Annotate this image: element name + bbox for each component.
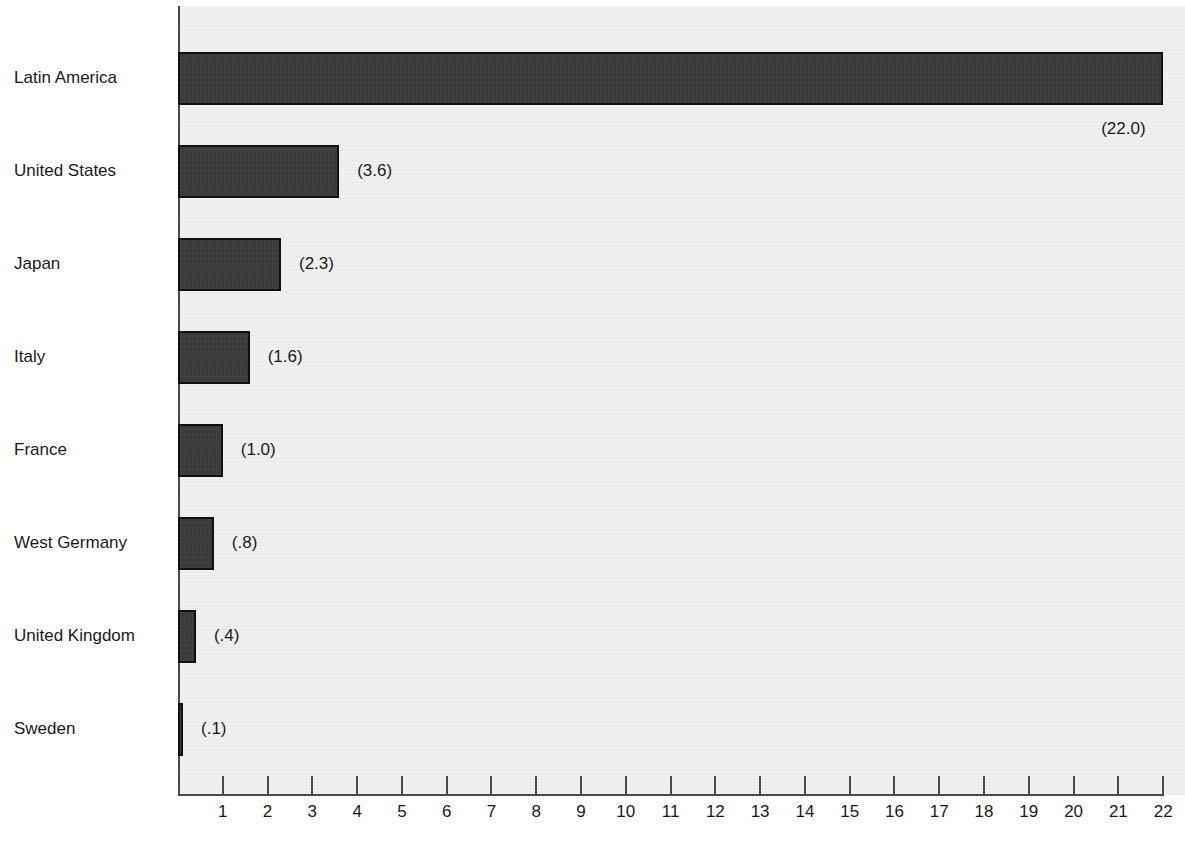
x-tick-label: 4 bbox=[352, 802, 361, 822]
x-tick-label: 22 bbox=[1154, 802, 1173, 822]
bar-texture bbox=[180, 519, 212, 568]
x-tick-label: 1 bbox=[218, 802, 227, 822]
x-tick-mark bbox=[490, 776, 492, 795]
bar bbox=[178, 331, 250, 384]
category-label: France bbox=[14, 440, 166, 460]
value-label: (.1) bbox=[201, 719, 227, 739]
y-axis-line bbox=[178, 6, 180, 796]
bar bbox=[178, 703, 183, 756]
x-tick-mark bbox=[804, 776, 806, 795]
bar-chart: Latin AmericaUnited StatesJapanItalyFran… bbox=[0, 0, 1185, 846]
x-tick-mark bbox=[535, 776, 537, 795]
x-tick-mark bbox=[401, 776, 403, 795]
x-tick-label: 7 bbox=[487, 802, 496, 822]
x-tick-mark bbox=[625, 776, 627, 795]
x-tick-mark bbox=[222, 776, 224, 795]
value-label: (1.0) bbox=[241, 440, 276, 460]
x-tick-label: 3 bbox=[308, 802, 317, 822]
x-tick-label: 14 bbox=[795, 802, 814, 822]
bar bbox=[178, 238, 281, 291]
bar-texture bbox=[180, 426, 221, 475]
x-tick-mark bbox=[580, 776, 582, 795]
x-tick-label: 19 bbox=[1019, 802, 1038, 822]
x-tick-mark bbox=[446, 776, 448, 795]
x-tick-mark bbox=[267, 776, 269, 795]
x-tick-mark bbox=[759, 776, 761, 795]
bar bbox=[178, 517, 214, 570]
x-tick-mark bbox=[670, 776, 672, 795]
plot-background-texture bbox=[178, 6, 1185, 795]
category-label: Latin America bbox=[14, 68, 166, 88]
value-label: (2.3) bbox=[299, 254, 334, 274]
x-tick-mark bbox=[893, 776, 895, 795]
bar bbox=[178, 424, 223, 477]
x-tick-label: 5 bbox=[397, 802, 406, 822]
x-tick-mark bbox=[311, 776, 313, 795]
bar bbox=[178, 52, 1163, 105]
x-tick-mark bbox=[714, 776, 716, 795]
x-tick-mark bbox=[849, 776, 851, 795]
x-tick-label: 17 bbox=[930, 802, 949, 822]
x-tick-label: 9 bbox=[576, 802, 585, 822]
bar-texture bbox=[180, 612, 194, 661]
bar-texture bbox=[180, 54, 1161, 103]
bar bbox=[178, 610, 196, 663]
x-tick-label: 8 bbox=[532, 802, 541, 822]
x-tick-label: 13 bbox=[751, 802, 770, 822]
x-tick-label: 21 bbox=[1109, 802, 1128, 822]
category-label: West Germany bbox=[14, 533, 166, 553]
x-tick-mark bbox=[1028, 776, 1030, 795]
x-tick-mark bbox=[1117, 776, 1119, 795]
x-tick-label: 12 bbox=[706, 802, 725, 822]
bar-texture bbox=[180, 705, 181, 754]
x-tick-label: 6 bbox=[442, 802, 451, 822]
x-tick-mark bbox=[938, 776, 940, 795]
x-tick-mark bbox=[1162, 776, 1164, 795]
x-tick-mark bbox=[1073, 776, 1075, 795]
category-label: Sweden bbox=[14, 719, 166, 739]
category-label: Italy bbox=[14, 347, 166, 367]
plot-area bbox=[178, 6, 1185, 795]
value-label: (.4) bbox=[214, 626, 240, 646]
bar-texture bbox=[180, 333, 248, 382]
x-tick-label: 16 bbox=[885, 802, 904, 822]
category-label: United States bbox=[14, 161, 166, 181]
category-label: United Kingdom bbox=[14, 626, 166, 646]
x-tick-label: 15 bbox=[840, 802, 859, 822]
x-tick-mark bbox=[983, 776, 985, 795]
x-tick-label: 11 bbox=[662, 802, 680, 822]
value-label: (3.6) bbox=[357, 161, 392, 181]
x-tick-label: 10 bbox=[616, 802, 635, 822]
x-tick-label: 18 bbox=[975, 802, 994, 822]
value-label: (.8) bbox=[232, 533, 258, 553]
bar-texture bbox=[180, 240, 279, 289]
bar bbox=[178, 145, 339, 198]
category-label: Japan bbox=[14, 254, 166, 274]
x-tick-label: 20 bbox=[1064, 802, 1083, 822]
bar-texture bbox=[180, 147, 337, 196]
x-tick-mark bbox=[356, 776, 358, 795]
x-tick-label: 2 bbox=[263, 802, 272, 822]
value-label: (22.0) bbox=[1101, 119, 1145, 139]
value-label: (1.6) bbox=[268, 347, 303, 367]
